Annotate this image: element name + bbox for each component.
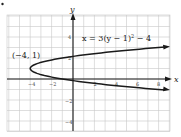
y-tick-label: −4 — [65, 119, 72, 125]
x-tick-label: −4 — [28, 81, 35, 87]
y-axis-arrow-icon — [71, 13, 76, 20]
x-tick-label: −2 — [49, 81, 56, 87]
y-axis-label: y — [69, 5, 75, 14]
grid-lines — [7, 15, 170, 132]
curve-upper-arrow-icon — [163, 45, 170, 50]
equation-main: x = 3(y − 1) — [82, 34, 131, 43]
y-tick-label: −2 — [65, 98, 72, 104]
vertex-label: (−4, 1) — [12, 51, 40, 60]
equation-tail: − 4 — [134, 34, 151, 43]
x-axis-label: x — [174, 75, 179, 84]
y-tick-label: 4 — [68, 34, 71, 40]
bullet-mark — [1, 3, 3, 5]
x-axis-arrow-icon — [165, 77, 172, 82]
x-tick-label: 8 — [157, 81, 160, 87]
parabola-chart: x y −4 −2 2 4 6 8 4 2 −2 −4 (−4, 1) x = … — [0, 0, 181, 137]
equation-label: x = 3(y − 1)2 − 4 — [82, 33, 151, 43]
y-tick-label: 2 — [68, 55, 71, 61]
x-tick-label: 6 — [136, 81, 139, 87]
grid-border — [7, 15, 170, 131]
curve-lower-arrow-icon — [163, 86, 170, 91]
